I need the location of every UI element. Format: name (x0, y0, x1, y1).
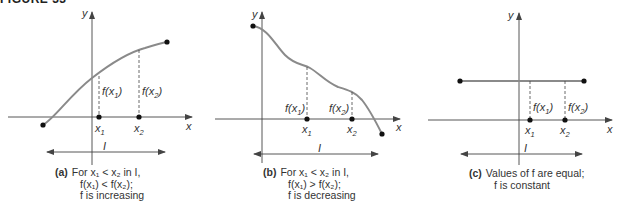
panel-c-constant: y x x1 x2 f(x1) f(x2) I (428, 9, 613, 165)
panel-b-decreasing: y x x1 x2 f(x1) f(x2) I (215, 8, 402, 163)
x-axis-label: x (395, 121, 402, 133)
caption-a: (a)For x₁ < x₂ in I, f(x₁) < f(x₂); f is… (55, 167, 144, 202)
x-axis-label: x (606, 123, 613, 135)
right-endpoint-dot (581, 78, 586, 83)
x2-label: x2 (559, 124, 571, 139)
x2-label: x2 (346, 123, 358, 138)
x1-dot (304, 116, 309, 121)
x2-label: x2 (133, 122, 145, 137)
caption-line-1: Values of f are equal; (486, 167, 584, 179)
caption-tag: (a) (55, 166, 68, 178)
x2-dot (562, 117, 567, 122)
x1-dot (527, 117, 532, 122)
interval-label: I (318, 142, 321, 154)
caption-tag: (b) (263, 166, 276, 178)
x-axis-label: x (185, 120, 192, 132)
left-endpoint-dot (250, 23, 255, 28)
left-endpoint-dot (40, 122, 45, 127)
decreasing-curve (253, 26, 382, 134)
y-axis-label: y (81, 7, 89, 19)
x1-label: x1 (301, 123, 312, 138)
increasing-curve (43, 42, 167, 125)
y-axis-label: y (251, 8, 259, 20)
right-endpoint-dot (379, 131, 384, 136)
fx1-label: f(x1) (285, 102, 305, 117)
caption-line-3: f is decreasing (263, 190, 356, 202)
caption-line-1: For x₁ < x₂ in I, (72, 166, 141, 178)
caption-b: (b)For x₁ < x₂ in I, f(x₁) > f(x₂); f is… (263, 167, 356, 202)
caption-line-2: f is constant (469, 180, 584, 192)
fx1-label: f(x1) (533, 101, 553, 116)
panel-a-increasing: y x x1 x2 f(x1) f(x2) I (8, 7, 192, 165)
caption-line-3: f is increasing (55, 190, 144, 202)
caption-tag: (c) (469, 167, 482, 179)
fx1-label: f(x1) (102, 85, 122, 100)
right-endpoint-dot (164, 39, 169, 44)
caption-c: (c)Values of f are equal; f is constant (469, 168, 584, 191)
x2-dot (349, 116, 354, 121)
x1-label: x1 (524, 124, 535, 139)
left-endpoint-dot (457, 78, 462, 83)
interval-label: I (524, 142, 527, 154)
x1-dot (96, 114, 101, 119)
x1-label: x1 (94, 122, 105, 137)
fx2-label: f(x2) (568, 101, 588, 116)
fx2-label: f(x2) (142, 85, 162, 100)
fx2-label: f(x2) (329, 102, 349, 117)
interval-label: I (103, 140, 106, 152)
caption-line-1: For x₁ < x₂ in I, (280, 166, 349, 178)
x2-dot (136, 114, 141, 119)
y-axis-label: y (507, 9, 515, 21)
